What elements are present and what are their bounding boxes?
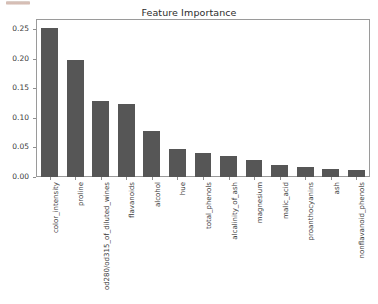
x-tick-label: alcohol [155, 182, 162, 207]
bar-slot [118, 20, 135, 177]
y-tick-mark [33, 177, 36, 178]
x-tick-label: ash [334, 182, 341, 194]
x-tick-mark [356, 177, 357, 180]
y-tick-mark [33, 59, 36, 60]
x-tick-mark [177, 177, 178, 180]
x-tick-label: magnesium [257, 182, 264, 223]
y-tick-mark [33, 147, 36, 148]
bar [220, 156, 237, 177]
x-tick-label: flavanoids [129, 182, 136, 218]
bar [297, 167, 314, 177]
y-tick-mark [33, 88, 36, 89]
y-tick-mark [33, 118, 36, 119]
plot-area [37, 20, 369, 177]
bar [322, 169, 339, 177]
bar [246, 160, 263, 177]
x-tick-mark [203, 177, 204, 180]
x-tick-label: proanthocyanins [308, 182, 315, 240]
bar-slot [92, 20, 109, 177]
bar [195, 153, 212, 177]
y-tick-label: 0.20 [12, 54, 29, 63]
y-tick-label: 0.25 [12, 24, 29, 33]
y-tick-label: 0.05 [12, 142, 29, 151]
bar-slot [348, 20, 365, 177]
x-tick-label: total_phenols [206, 182, 213, 229]
y-tick-label: 0.10 [12, 113, 29, 122]
x-tick-label: proline [78, 182, 85, 206]
bar-slot [322, 20, 339, 177]
x-tick-mark [229, 177, 230, 180]
x-tick-mark [331, 177, 332, 180]
y-tick-label: 0.15 [12, 83, 29, 92]
bar-slot [297, 20, 314, 177]
bar [271, 165, 288, 177]
bar [92, 101, 109, 177]
x-tick-mark [50, 177, 51, 180]
x-tick-label: od280/od315_of_diluted_wines [104, 182, 111, 290]
bar-slot [169, 20, 186, 177]
cropped-ui-strip [6, 1, 30, 5]
x-tick-mark [126, 177, 127, 180]
bar-slot [67, 20, 84, 177]
bar-slot [246, 20, 263, 177]
x-tick-mark [280, 177, 281, 180]
x-tick-mark [75, 177, 76, 180]
x-tick-mark [101, 177, 102, 180]
x-tick-label: malic_acid [283, 182, 290, 219]
chart-title: Feature Importance [0, 7, 378, 18]
bar [118, 104, 135, 177]
bar [143, 131, 160, 177]
bar-slot [220, 20, 237, 177]
bar-slot [41, 20, 58, 177]
x-tick-label: color_intensity [53, 182, 60, 233]
x-tick-label: nonflavanoid_phenols [359, 182, 366, 258]
y-tick-mark [33, 29, 36, 30]
y-tick-label: 0.00 [12, 172, 29, 181]
x-tick-mark [254, 177, 255, 180]
x-tick-label: alcalinity_of_ash [232, 182, 239, 240]
bar [169, 149, 186, 177]
bar-slot [195, 20, 212, 177]
bar [67, 60, 84, 177]
bar-slot [271, 20, 288, 177]
x-tick-mark [305, 177, 306, 180]
feature-importance-figure: Feature Importance 0.000.050.100.150.200… [0, 0, 378, 304]
bar [41, 28, 58, 177]
bar [348, 170, 365, 177]
bar-slot [143, 20, 160, 177]
x-tick-mark [152, 177, 153, 180]
x-tick-label: hue [180, 182, 187, 195]
